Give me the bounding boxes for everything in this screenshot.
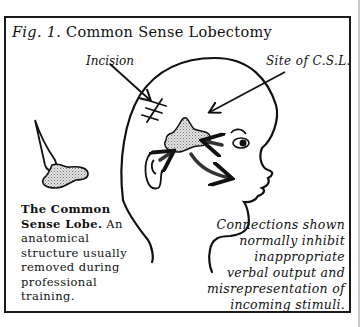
ear-icon	[146, 152, 163, 189]
connections-caption-line: verbal output and	[175, 265, 345, 281]
connections-caption-line: inappropriate	[175, 249, 345, 265]
lobe-caption-title: The Common Sense Lobe.	[21, 202, 110, 231]
connections-caption-line: normally inhibit	[175, 233, 345, 249]
connections-caption-line: incoming stimuli.	[175, 297, 345, 313]
lobe-caption-line: structure usually	[21, 246, 127, 260]
lobe-caption-line: removed during	[21, 260, 120, 274]
eye-icon	[231, 129, 249, 148]
incision-stitches	[142, 99, 166, 122]
lobe-caption-line: professional training.	[21, 275, 97, 304]
connections-caption: Connections shown normally inhibit inapp…	[175, 217, 345, 313]
connections-caption-line: Connections shown	[175, 217, 345, 233]
lobe-in-head	[165, 118, 211, 152]
removed-lobe	[35, 120, 88, 188]
connections-caption-line: misrepresentation of	[175, 281, 345, 297]
lobe-caption: The Common Sense Lobe. An anatomical str…	[21, 202, 141, 304]
incision-arrow	[110, 64, 150, 100]
site-arrow	[210, 72, 285, 112]
